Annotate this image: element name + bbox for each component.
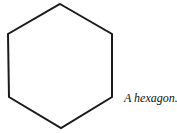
hexagon-shape <box>8 4 112 128</box>
hexagon-diagram <box>0 0 177 133</box>
hexagon-caption: A hexagon. <box>124 91 177 106</box>
